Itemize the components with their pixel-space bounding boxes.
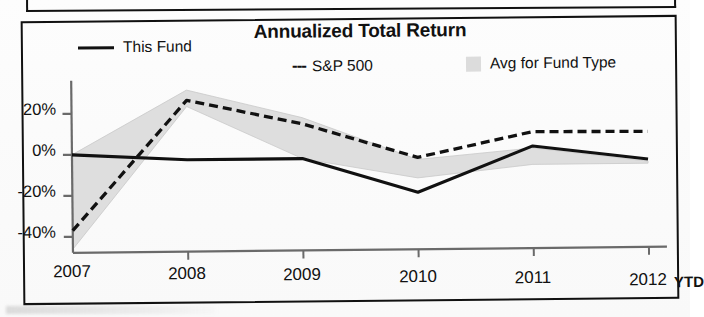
y-axis-label: -20%: [0, 182, 56, 202]
x-axis-label: 2009: [264, 265, 340, 286]
y-axis-label: 20%: [0, 100, 56, 120]
x-axis-label: 2010: [379, 266, 455, 287]
y-axis-label: 0%: [0, 141, 56, 161]
y-axis-label: -40%: [0, 223, 56, 243]
x-axis-ytd-label: YTD: [674, 273, 704, 290]
y-axis-line: [71, 81, 73, 253]
x-axis-label: 2008: [149, 263, 225, 284]
x-axis-line: [73, 247, 667, 253]
avg-fund-type-band: [71, 85, 649, 249]
scan-smudge: [6, 306, 216, 314]
x-axis-label: 2007: [34, 262, 110, 283]
x-axis-label: 2011: [495, 268, 571, 289]
